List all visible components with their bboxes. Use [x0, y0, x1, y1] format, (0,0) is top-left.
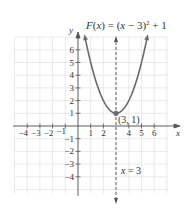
y-tick-label: −2 [64, 146, 74, 156]
y-tick-label: 5 [70, 58, 75, 68]
y-tick-label: 4 [70, 70, 75, 80]
y-tick-label: −4 [64, 172, 74, 182]
y-tick-label: −3 [64, 159, 74, 169]
axes [13, 32, 180, 196]
y-tick-label: 6 [70, 45, 75, 55]
y-axis-arrow-icon [76, 32, 80, 38]
vertex-label: (3, 1) [118, 114, 140, 126]
x-tick-label: 6 [152, 128, 157, 138]
function-title: F(x) = (x − 3)2 + 1 [85, 19, 167, 32]
symmetry-arrow-down-icon [114, 198, 118, 204]
x-tick-label: −2 [44, 128, 54, 138]
y-tick-label: 2 [70, 96, 75, 106]
y-axis-label: y [68, 25, 73, 35]
x-tick-label: 1 [88, 128, 93, 138]
x-axis-label: x [175, 128, 180, 138]
x-tick-label: 2 [101, 128, 106, 138]
x-tick-label: 4 [127, 128, 132, 138]
y-tick-label: 1 [70, 108, 75, 118]
parabola-graph: −4−3−2−112456654321−1−2−3−4 (3, 1) y x F… [0, 0, 191, 208]
symmetry-label: x = 3 [120, 165, 141, 176]
y-tick-label: 3 [70, 83, 75, 93]
x-tick-label: −4 [18, 128, 28, 138]
x-tick-label: −3 [31, 128, 41, 138]
x-tick-label: 5 [139, 128, 144, 138]
y-tick-label: −1 [64, 134, 74, 144]
